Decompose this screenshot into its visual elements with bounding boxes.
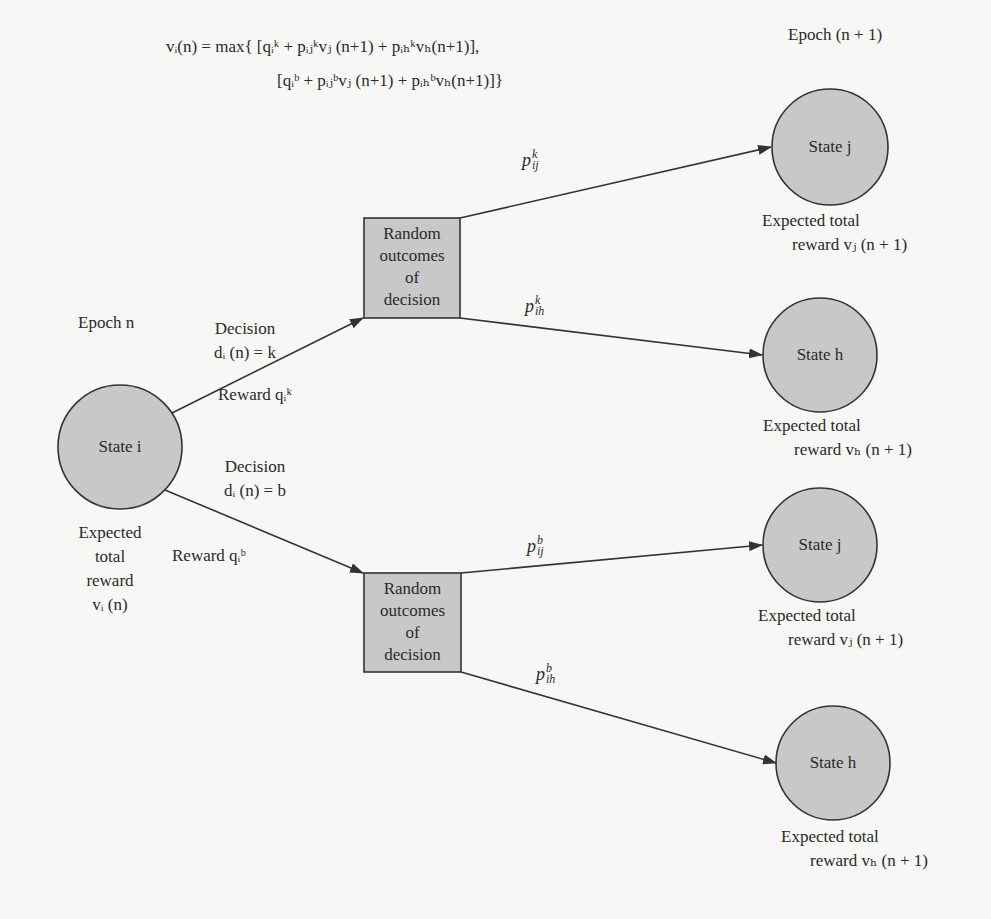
state-h-k-reward-line-1: Expected total (763, 414, 912, 438)
state-h-k-label: State h (770, 344, 870, 365)
box-b-line-3: of (364, 622, 461, 644)
box-k-line-3: of (364, 267, 460, 289)
state-j-b-reward: Expected total reward vⱼ (n + 1) (758, 604, 903, 652)
random-outcomes-b-text: Random outcomes of decision (364, 578, 461, 666)
prob-ij-b-sub: ij (537, 546, 544, 557)
box-k-line-2: outcomes (364, 245, 460, 267)
state-h-k-reward-line-2: reward vₕ (n + 1) (763, 438, 912, 462)
prob-ih-k: pkih (525, 296, 544, 319)
prob-ih-k-sub: ih (535, 306, 544, 317)
state-j-b-reward-line-1: Expected total (758, 604, 903, 628)
prob-ij-k: pkij (522, 150, 539, 173)
prob-ij-b-base: p (527, 536, 536, 556)
state-i-reward-line-2: total (50, 545, 170, 569)
decision-k-title: Decision (190, 317, 300, 341)
state-i-reward-line-3: reward (50, 569, 170, 593)
decision-b-formula: dᵢ (n) = b (200, 479, 310, 503)
equation-line-2: [qᵢᵇ + pᵢⱼᵇvⱼ (n+1) + pᵢₕᵇvₕ(n+1)]} (277, 70, 503, 91)
random-outcomes-k-text: Random outcomes of decision (364, 223, 460, 311)
state-j-k-reward-line-2: reward vⱼ (n + 1) (762, 233, 907, 257)
box-k-line-4: decision (364, 289, 460, 311)
state-j-k-reward-line-1: Expected total (762, 209, 907, 233)
prob-ih-k-base: p (525, 296, 534, 316)
box-b-line-2: outcomes (364, 600, 461, 622)
edge-k-to-state-h (460, 318, 762, 355)
state-j-b-reward-line-2: reward vⱼ (n + 1) (758, 628, 903, 652)
prob-ij-b: pbij (527, 536, 544, 559)
state-j-k-label: State j (780, 136, 880, 157)
decision-b-label: Decision dᵢ (n) = b (200, 455, 310, 503)
epoch-current-label: Epoch n (78, 312, 134, 333)
prob-ih-b: pbih (536, 664, 555, 687)
equation-line-1: vᵢ(n) = max{ [qᵢᵏ + pᵢⱼᵏvⱼ (n+1) + pᵢₕᵏv… (166, 36, 479, 57)
prob-ih-b-sub: ih (546, 674, 555, 685)
state-h-b-reward: Expected total reward vₕ (n + 1) (781, 825, 928, 873)
state-i-reward-line-1: Expected (50, 521, 170, 545)
state-h-b-reward-line-1: Expected total (781, 825, 928, 849)
box-b-line-4: decision (364, 644, 461, 666)
decision-b-title: Decision (200, 455, 310, 479)
decision-k-label: Decision dᵢ (n) = k (190, 317, 300, 365)
reward-b-label: Reward qᵢᵇ (172, 545, 246, 566)
prob-ij-k-sub: ij (532, 160, 539, 171)
state-h-b-label: State h (783, 752, 883, 773)
epoch-next-label: Epoch (n + 1) (788, 24, 882, 45)
box-k-line-1: Random (364, 223, 460, 245)
state-h-k-reward: Expected total reward vₕ (n + 1) (763, 414, 912, 462)
state-i-reward: Expected total reward vᵢ (n) (50, 521, 170, 617)
state-i-label: State i (70, 436, 170, 457)
reward-k-label: Reward qᵢᵏ (218, 384, 292, 405)
edge-b-to-state-h (461, 672, 776, 763)
state-h-b-reward-line-2: reward vₕ (n + 1) (781, 849, 928, 873)
state-i-reward-line-4: vᵢ (n) (50, 593, 170, 617)
edge-k-to-state-j (460, 147, 771, 218)
prob-ih-b-base: p (536, 664, 545, 684)
decision-k-formula: dᵢ (n) = k (190, 341, 300, 365)
edge-b-to-state-j (461, 545, 762, 573)
state-j-b-label: State j (770, 534, 870, 555)
prob-ij-k-base: p (522, 150, 531, 170)
state-j-k-reward: Expected total reward vⱼ (n + 1) (762, 209, 907, 257)
box-b-line-1: Random (364, 578, 461, 600)
